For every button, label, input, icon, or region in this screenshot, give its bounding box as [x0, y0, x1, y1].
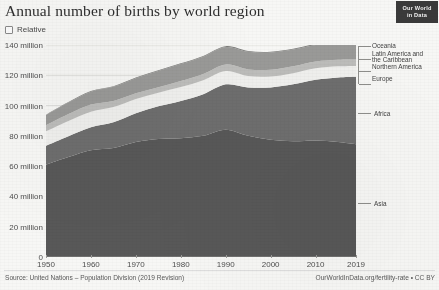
- y-axis-tick-label: 20 million: [9, 222, 43, 231]
- x-axis-tick-label: 1980: [172, 260, 190, 269]
- chart-plot-area: [46, 45, 356, 257]
- logo-line-2: in Data: [407, 12, 427, 19]
- source-note: Source: United Nations – Population Divi…: [5, 274, 184, 281]
- legend-item-asia[interactable]: Asia: [374, 200, 439, 207]
- chart-legend: Oceania Latin America and the Caribbean …: [358, 40, 439, 220]
- x-axis-tick: [181, 255, 182, 258]
- chart-page: Annual number of births by world region …: [0, 0, 439, 290]
- legend-bracket: [358, 46, 371, 84]
- x-axis-tick: [356, 255, 357, 258]
- x-axis-tick-label: 2019: [347, 260, 365, 269]
- legend-item-northern-america[interactable]: Northern America: [372, 63, 439, 70]
- y-axis-tick-label: 60 million: [9, 162, 43, 171]
- our-world-in-data-logo[interactable]: Our World in Data: [396, 1, 438, 23]
- x-axis-tick-label: 1960: [82, 260, 100, 269]
- footer-divider: [4, 270, 435, 271]
- y-axis-tick-label: 120 million: [5, 71, 43, 80]
- area-bands: [46, 45, 356, 257]
- credit-note[interactable]: OurWorldInData.org/fertility-rate • CC B…: [316, 274, 435, 281]
- x-axis-tick: [46, 255, 47, 258]
- relative-toggle[interactable]: Relative: [5, 25, 46, 34]
- y-axis: 020 million40 million60 million80 millio…: [0, 45, 43, 257]
- y-axis-tick-label: 40 million: [9, 192, 43, 201]
- legend-item-oceania[interactable]: Oceania: [372, 42, 439, 49]
- legend-item-europe[interactable]: Europe: [372, 75, 439, 82]
- x-axis-tick-label: 2010: [307, 260, 325, 269]
- page-title: Annual number of births by world region: [5, 2, 265, 20]
- logo-line-1: Our World: [402, 5, 431, 12]
- legend-leader-asia: [358, 203, 371, 204]
- y-axis-tick-label: 100 million: [5, 101, 43, 110]
- y-axis-tick-label: 140 million: [5, 41, 43, 50]
- y-axis-tick-label: 80 million: [9, 131, 43, 140]
- relative-checkbox-icon[interactable]: [5, 26, 13, 34]
- stacked-area-svg: [46, 45, 356, 257]
- x-axis-tick-label: 1970: [127, 260, 145, 269]
- x-axis-tick-label: 1950: [37, 260, 55, 269]
- legend-item-africa[interactable]: Africa: [374, 110, 439, 117]
- x-axis-tick: [316, 255, 317, 258]
- x-axis-tick-label: 1990: [217, 260, 235, 269]
- x-axis-tick: [91, 255, 92, 258]
- x-axis-tick: [136, 255, 137, 258]
- x-axis-tick: [226, 255, 227, 258]
- relative-toggle-label: Relative: [17, 25, 46, 34]
- legend-leader-africa: [358, 113, 371, 114]
- x-axis-tick: [271, 255, 272, 258]
- x-axis-tick-label: 2000: [262, 260, 280, 269]
